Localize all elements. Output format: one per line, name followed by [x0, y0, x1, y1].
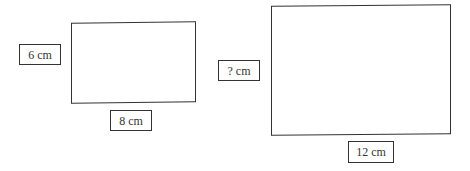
- small-rectangle: [71, 21, 196, 103]
- large-rectangle-height-label: ? cm: [218, 60, 260, 81]
- small-rectangle-width-label: 8 cm: [110, 110, 152, 131]
- large-rectangle-width-label: 12 cm: [348, 141, 394, 163]
- small-rectangle-height-label: 6 cm: [19, 44, 61, 65]
- large-rectangle: [271, 4, 451, 136]
